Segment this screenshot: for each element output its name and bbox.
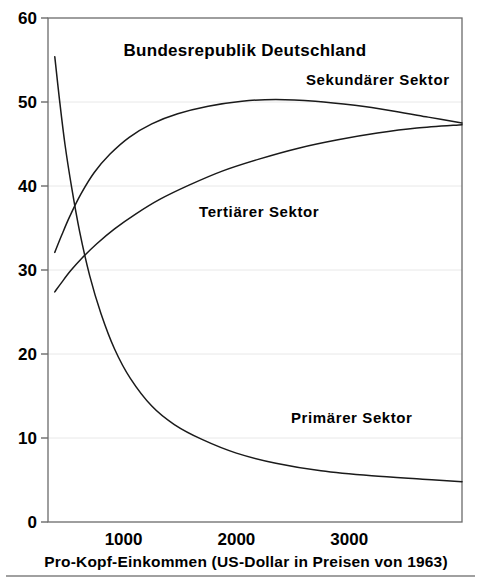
chart-figure: 0102030405060 100020003000 Sekundärer Se… [0, 0, 481, 578]
chart-title: Bundesrepublik Deutschland [123, 41, 366, 60]
series-annotations-group: Sekundärer SektorTertiärer SektorPrimäre… [199, 71, 450, 426]
y-axis-tick-labels: 0102030405060 [18, 9, 37, 532]
series-label-prim-rer-sektor: Primärer Sektor [291, 409, 413, 426]
x-tick-label-2000: 2000 [217, 530, 255, 549]
series-line-sekund-rer-sektor [55, 99, 462, 252]
y-tick-label-60: 60 [18, 9, 37, 28]
y-tick-label-0: 0 [28, 513, 37, 532]
gridlines-group [48, 102, 462, 438]
y-tick-label-10: 10 [18, 429, 37, 448]
series-label-terti-rer-sektor: Tertiärer Sektor [199, 203, 319, 220]
x-axis-title: Pro-Kopf-Einkommen (US-Dollar in Preisen… [44, 553, 448, 570]
x-tick-label-1000: 1000 [105, 530, 143, 549]
y-tick-label-30: 30 [18, 261, 37, 280]
y-tick-label-50: 50 [18, 93, 37, 112]
x-axis-tick-labels: 100020003000 [105, 530, 368, 549]
series-label-sekund-rer-sektor: Sekundärer Sektor [306, 71, 450, 88]
line-chart: 0102030405060 100020003000 Sekundärer Se… [0, 0, 481, 578]
x-tick-label-3000: 3000 [330, 530, 368, 549]
y-tick-label-40: 40 [18, 177, 37, 196]
tick-marks-group [41, 18, 48, 522]
y-tick-label-20: 20 [18, 345, 37, 364]
